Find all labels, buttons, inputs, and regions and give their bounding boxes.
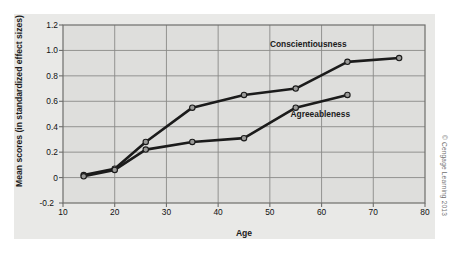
plot-background	[63, 25, 425, 203]
plot-svg	[0, 0, 463, 253]
series-label-agreeableness: Agreeableness	[291, 109, 351, 119]
copyright-notice: © Cengage Learning 2013	[348, 135, 448, 149]
chart-container: Mean scores (in standardized effect size…	[0, 0, 463, 253]
series-label-conscientiousness: Conscientiousness	[270, 39, 347, 49]
